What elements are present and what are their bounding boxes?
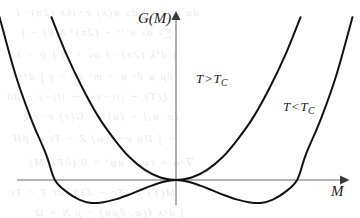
annotation-t-greater-than-tc: T>TC [196,72,227,87]
y-axis-arrowhead [171,11,180,20]
y-axis-label: G(M) [138,11,171,26]
annotation-t-gt-reference: T [214,71,221,86]
annotation-t-gt-relation: > [203,71,213,86]
annotation-t-gt-subscript: C [221,77,228,88]
annotation-t-lt-relation: < [290,99,300,114]
annotation-t-lt-reference: T [301,99,308,114]
annotation-t-lt-subscript: C [308,105,315,116]
x-axis-label: M [331,184,344,199]
landau-free-energy-figure: dφ̃ (x) = ∫ dx φ(x) e−ikx (2π)−1∑ₖ φₖ eⁱ… [0,0,360,218]
annotation-t-less-than-tc: T<TC [283,100,314,115]
